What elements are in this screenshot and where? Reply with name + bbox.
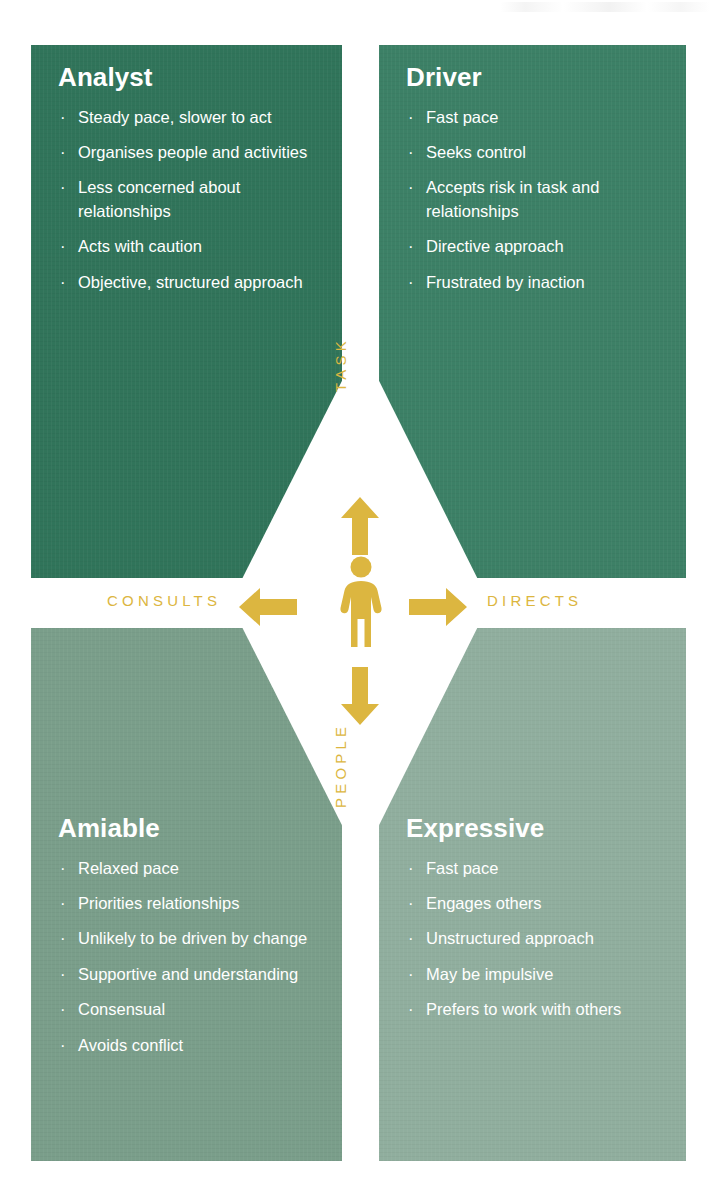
bullet-icon: · bbox=[408, 106, 414, 129]
quadrant-driver-trait-list: · Fast pace · Seeks control · Accepts ri… bbox=[406, 106, 660, 295]
trait-text: Engages others bbox=[426, 894, 542, 912]
list-item: · Frustrated by inaction bbox=[406, 271, 660, 294]
list-item: · Fast pace bbox=[406, 857, 660, 880]
list-item: · Priorities relationships bbox=[58, 892, 316, 915]
bullet-icon: · bbox=[60, 892, 66, 915]
person-icon bbox=[338, 556, 384, 652]
trait-text: Prefers to work with others bbox=[426, 1000, 621, 1018]
trait-text: Accepts risk in task and relationships bbox=[426, 178, 599, 219]
list-item: · Steady pace, slower to act bbox=[58, 106, 316, 129]
trait-text: Consensual bbox=[78, 1000, 165, 1018]
bullet-icon: · bbox=[60, 271, 66, 294]
trait-text: Frustrated by inaction bbox=[426, 273, 585, 291]
bullet-icon: · bbox=[408, 927, 414, 950]
list-item: · Unlikely to be driven by change bbox=[58, 927, 316, 950]
list-item: · Less concerned about relationships bbox=[58, 176, 316, 223]
quadrant-expressive-title: Expressive bbox=[406, 814, 660, 843]
bullet-icon: · bbox=[60, 998, 66, 1021]
bullet-icon: · bbox=[60, 927, 66, 950]
bullet-icon: · bbox=[60, 1034, 66, 1057]
list-item: · Objective, structured approach bbox=[58, 271, 316, 294]
trait-text: Priorities relationships bbox=[78, 894, 239, 912]
quadrant-analyst-title: Analyst bbox=[58, 63, 316, 92]
arrow-down-icon bbox=[341, 667, 379, 729]
list-item: · Unstructured approach bbox=[406, 927, 660, 950]
bullet-icon: · bbox=[408, 963, 414, 986]
bullet-icon: · bbox=[60, 963, 66, 986]
quadrant-amiable-title: Amiable bbox=[58, 814, 316, 843]
trait-text: Objective, structured approach bbox=[78, 273, 303, 291]
list-item: · Prefers to work with others bbox=[406, 998, 660, 1021]
arrow-up-icon bbox=[341, 497, 379, 559]
trait-text: Fast pace bbox=[426, 859, 498, 877]
trait-text: Seeks control bbox=[426, 143, 526, 161]
list-item: · Engages others bbox=[406, 892, 660, 915]
bullet-icon: · bbox=[408, 141, 414, 164]
quadrant-amiable-trait-list: · Relaxed pace · Priorities relationship… bbox=[58, 857, 316, 1058]
list-item: · Seeks control bbox=[406, 141, 660, 164]
scan-artifact bbox=[500, 2, 710, 12]
trait-text: Relaxed pace bbox=[78, 859, 179, 877]
trait-text: Unlikely to be driven by change bbox=[78, 929, 307, 947]
list-item: · Relaxed pace bbox=[58, 857, 316, 880]
trait-text: Avoids conflict bbox=[78, 1036, 183, 1054]
arrow-right-icon bbox=[409, 588, 467, 630]
trait-text: Organises people and activities bbox=[78, 143, 307, 161]
axis-label-directs: DIRECTS bbox=[487, 592, 582, 609]
quadrant-analyst-trait-list: · Steady pace, slower to act · Organises… bbox=[58, 106, 316, 295]
trait-text: Steady pace, slower to act bbox=[78, 108, 272, 126]
social-styles-matrix-diagram: Analyst · Steady pace, slower to act · O… bbox=[0, 0, 721, 1204]
bullet-icon: · bbox=[408, 857, 414, 880]
bullet-icon: · bbox=[60, 235, 66, 258]
bullet-icon: · bbox=[408, 235, 414, 258]
bullet-icon: · bbox=[60, 106, 66, 129]
quadrant-driver: Driver · Fast pace · Seeks control · Acc… bbox=[379, 45, 686, 578]
quadrant-driver-title: Driver bbox=[406, 63, 660, 92]
bullet-icon: · bbox=[408, 176, 414, 199]
trait-text: May be impulsive bbox=[426, 965, 553, 983]
list-item: · Acts with caution bbox=[58, 235, 316, 258]
list-item: · Consensual bbox=[58, 998, 316, 1021]
quadrant-amiable: Amiable · Relaxed pace · Priorities rela… bbox=[31, 628, 342, 1161]
quadrant-expressive: Expressive · Fast pace · Engages others … bbox=[379, 628, 686, 1161]
trait-text: Directive approach bbox=[426, 237, 564, 255]
arrow-left-icon bbox=[239, 588, 297, 630]
bullet-icon: · bbox=[408, 271, 414, 294]
bullet-icon: · bbox=[60, 176, 66, 199]
list-item: · Organises people and activities bbox=[58, 141, 316, 164]
list-item: · Directive approach bbox=[406, 235, 660, 258]
trait-text: Supportive and understanding bbox=[78, 965, 298, 983]
bullet-icon: · bbox=[408, 892, 414, 915]
axis-label-consults: CONSULTS bbox=[107, 592, 221, 609]
list-item: · Avoids conflict bbox=[58, 1034, 316, 1057]
list-item: · Supportive and understanding bbox=[58, 963, 316, 986]
quadrant-analyst: Analyst · Steady pace, slower to act · O… bbox=[31, 45, 342, 578]
bullet-icon: · bbox=[60, 857, 66, 880]
bullet-icon: · bbox=[408, 998, 414, 1021]
trait-text: Unstructured approach bbox=[426, 929, 594, 947]
list-item: · May be impulsive bbox=[406, 963, 660, 986]
list-item: · Accepts risk in task and relationships bbox=[406, 176, 660, 223]
list-item: · Fast pace bbox=[406, 106, 660, 129]
axis-label-task: TASK bbox=[332, 337, 349, 392]
trait-text: Acts with caution bbox=[78, 237, 202, 255]
bullet-icon: · bbox=[60, 141, 66, 164]
quadrant-expressive-trait-list: · Fast pace · Engages others · Unstructu… bbox=[406, 857, 660, 1022]
trait-text: Fast pace bbox=[426, 108, 498, 126]
axis-label-people: PEOPLE bbox=[332, 723, 349, 808]
trait-text: Less concerned about relationships bbox=[78, 178, 240, 219]
